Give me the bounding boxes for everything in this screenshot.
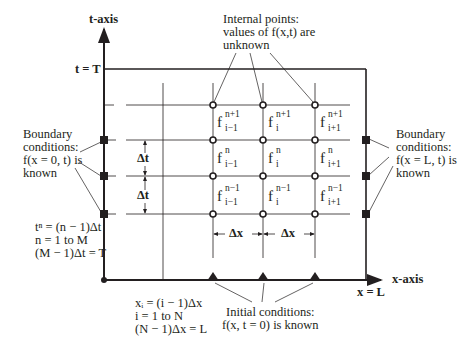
node-sup: n−1	[328, 183, 343, 193]
node-sub: i+1	[328, 197, 341, 207]
node-sub: i−1	[225, 159, 238, 169]
node-base: f	[320, 114, 325, 130]
node-sub: i−1	[225, 123, 238, 133]
node-sup: n+1	[328, 109, 343, 119]
node-sub: i+1	[328, 159, 341, 169]
node-sub: i+1	[328, 123, 341, 133]
dt-label-lower: Δt	[137, 189, 149, 202]
leader-right-boundary-2	[369, 157, 389, 175]
leader-internal-1	[214, 53, 236, 102]
node-base: f	[268, 114, 273, 130]
dx-label-right: Δx	[281, 227, 295, 240]
x-end-label: x = L	[357, 286, 385, 299]
node-base: f	[320, 150, 325, 166]
time-discretization-annotation: tⁿ = (n − 1)Δt n = 1 to M (M − 1)Δt = T	[35, 221, 106, 260]
t-end-label: t = T	[75, 63, 101, 76]
left-boundary-marker	[100, 136, 108, 144]
node-label: fn+1i	[268, 114, 273, 131]
space-discretization-annotation: xᵢ = (i − 1)Δx i = 1 to N (N − 1)Δx = L	[135, 297, 207, 336]
leader-right-boundary-1	[369, 139, 389, 148]
internal-points-annotation: Internal points: values of f(x,t) are un…	[223, 13, 315, 52]
right-boundary-annotation: Boundary conditions: f(x = L, t) is know…	[396, 128, 457, 180]
leader-internal-3	[270, 53, 313, 102]
initial-condition-marker	[309, 272, 321, 281]
t-axis-label: t-axis	[89, 13, 118, 26]
leader-initial-3	[275, 283, 313, 302]
node-label: fn−1i+1	[320, 188, 325, 205]
leader-right-boundary-3	[369, 166, 393, 212]
node-base: f	[217, 114, 222, 130]
node-sub: i	[276, 197, 279, 207]
node-label: fni+1	[320, 150, 325, 167]
node-sup: n	[276, 145, 281, 155]
node-sub: i−1	[225, 197, 238, 207]
dx-label-left: Δx	[229, 227, 243, 240]
node-sub: i	[276, 159, 279, 169]
node-label: fni−1	[217, 150, 222, 167]
node-sup: n−1	[225, 183, 240, 193]
dt-label-upper: Δt	[137, 152, 149, 165]
node-base: f	[217, 150, 222, 166]
leader-left-boundary-1	[80, 142, 101, 152]
left-boundary-annotation: Boundary conditions: f(x = 0, t) is know…	[23, 128, 82, 180]
leader-initial-1	[215, 283, 252, 302]
initial-condition-marker	[257, 272, 269, 281]
node-label: fn+1i−1	[217, 114, 222, 131]
node-sup: n	[225, 145, 230, 155]
annotation-line: f(x, t = 0) is known	[222, 319, 319, 332]
annotation-line: (N − 1)Δx = L	[135, 323, 207, 336]
annotation-line: known	[396, 167, 457, 180]
annotation-line: unknown	[223, 39, 315, 52]
node-base: f	[268, 188, 273, 204]
initial-condition-marker	[207, 272, 219, 281]
node-sup: n−1	[276, 183, 291, 193]
right-boundary-marker	[362, 210, 370, 218]
x-axis-label: x-axis	[392, 273, 423, 286]
leader-internal-2	[250, 53, 262, 102]
node-sup: n+1	[225, 109, 240, 119]
node-sup: n+1	[276, 109, 291, 119]
initial-conditions-annotation: Initial conditions: f(x, t = 0) is known	[222, 306, 319, 332]
node-sub: i	[276, 123, 279, 133]
node-label: fni	[268, 150, 273, 167]
left-boundary-marker	[100, 210, 108, 218]
node-base: f	[217, 188, 222, 204]
node-base: f	[268, 150, 273, 166]
right-boundary-marker	[362, 172, 370, 180]
left-boundary-marker	[100, 172, 108, 180]
node-base: f	[320, 188, 325, 204]
origin-dot	[101, 277, 107, 283]
right-boundary-marker	[362, 136, 370, 144]
node-label: fn−1i−1	[217, 188, 222, 205]
node-label: fn+1i+1	[320, 114, 325, 131]
node-sup: n	[328, 145, 333, 155]
leader-initial-2	[262, 283, 264, 302]
node-label: fn−1i	[268, 188, 273, 205]
annotation-line: (M − 1)Δt = T	[35, 247, 106, 260]
annotation-line: known	[23, 167, 82, 180]
